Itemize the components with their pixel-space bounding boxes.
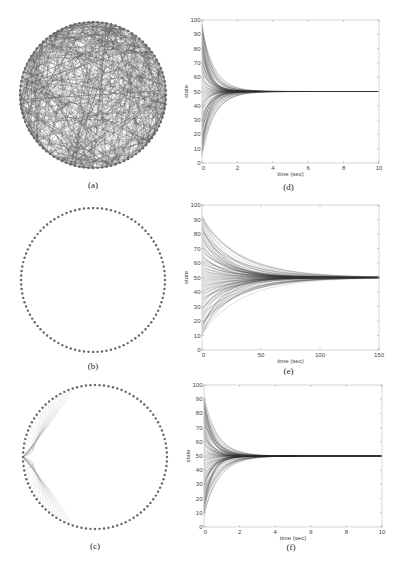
y-tick-label: 40 — [194, 289, 201, 295]
x-tick-label: 8 — [345, 529, 349, 535]
y-tick-label: 0 — [197, 347, 201, 353]
plot-panel-f: 01020304050607080901000246810time (sec)s… — [185, 382, 386, 552]
y-tick-label: 70 — [194, 246, 201, 252]
x-tick-label: 2 — [238, 529, 242, 535]
y-tick-label: 90 — [196, 396, 203, 402]
y-tick-label: 70 — [194, 60, 201, 66]
plot-panel-e: 0102030405060708090100050100150time (sec… — [183, 202, 385, 376]
x-tick-label: 2 — [236, 165, 240, 171]
x-axis-label: time (sec) — [280, 535, 306, 541]
y-axis-label: state — [185, 449, 191, 463]
x-tick-label: 0 — [204, 529, 208, 535]
y-tick-label: 80 — [194, 231, 201, 237]
y-tick-label: 10 — [194, 146, 201, 152]
y-tick-label: 20 — [194, 131, 201, 137]
panel-caption: (d) — [283, 182, 294, 192]
state-trajectories — [202, 23, 379, 156]
y-tick-label: 100 — [190, 17, 201, 23]
y-tick-label: 30 — [194, 117, 201, 123]
y-tick-label: 40 — [194, 103, 201, 109]
y-tick-label: 60 — [194, 74, 201, 80]
panel-caption: (e) — [284, 366, 294, 376]
y-tick-label: 10 — [194, 333, 201, 339]
x-tick-label: 150 — [374, 352, 385, 358]
x-tick-label: 6 — [309, 529, 313, 535]
y-tick-label: 0 — [199, 524, 203, 530]
panel-caption: (a) — [88, 180, 98, 190]
graph-edges — [23, 389, 73, 526]
y-tick-label: 100 — [192, 382, 203, 388]
y-tick-label: 30 — [196, 481, 203, 487]
y-tick-label: 60 — [194, 260, 201, 266]
y-tick-label: 0 — [197, 160, 201, 166]
y-tick-label: 80 — [194, 46, 201, 52]
x-tick-label: 0 — [202, 165, 206, 171]
x-tick-label: 50 — [258, 352, 265, 358]
x-tick-label: 100 — [315, 352, 326, 358]
x-axis-label: time (sec) — [277, 171, 303, 177]
y-tick-label: 100 — [190, 202, 201, 208]
y-tick-label: 20 — [196, 496, 203, 502]
y-tick-label: 80 — [196, 410, 203, 416]
y-tick-label: 40 — [196, 467, 203, 473]
plot-panel-d: 01020304050607080901000246810time (sec)s… — [183, 17, 383, 192]
x-tick-label: 8 — [342, 165, 346, 171]
x-tick-label: 4 — [274, 529, 278, 535]
network-graph-panels: (a)(b)(c) — [19, 21, 168, 551]
x-axis-label: time (sec) — [277, 358, 303, 364]
x-tick-label: 6 — [307, 165, 311, 171]
y-tick-label: 90 — [194, 217, 201, 223]
state-trajectories — [202, 215, 379, 335]
y-tick-label: 30 — [194, 304, 201, 310]
figure: (a)(b)(c) 01020304050607080901000246810t… — [0, 0, 401, 570]
y-tick-label: 10 — [196, 510, 203, 516]
y-axis-label: state — [183, 270, 189, 284]
y-tick-label: 70 — [196, 425, 203, 431]
state-trajectories — [204, 396, 382, 515]
graph-panel-c: (c) — [22, 384, 168, 551]
y-tick-label: 60 — [196, 439, 203, 445]
x-tick-label: 0 — [202, 352, 206, 358]
y-tick-label: 20 — [194, 318, 201, 324]
y-tick-label: 50 — [196, 453, 203, 459]
panel-caption: (c) — [90, 541, 100, 551]
y-tick-label: 50 — [194, 89, 201, 95]
graph-edges — [20, 22, 166, 168]
x-tick-label: 10 — [379, 529, 386, 535]
y-tick-label: 50 — [194, 275, 201, 281]
consensus-state-plots: 01020304050607080901000246810time (sec)s… — [183, 17, 386, 552]
y-tick-label: 90 — [194, 31, 201, 37]
x-tick-label: 10 — [376, 165, 383, 171]
x-axis: 0246810 — [202, 20, 383, 171]
panel-caption: (f) — [287, 542, 296, 552]
panel-caption: (b) — [88, 361, 99, 371]
x-tick-label: 4 — [271, 165, 275, 171]
graph-panel-a: (a) — [19, 21, 167, 190]
graph-nodes — [22, 384, 168, 530]
graph-panel-b: (b) — [20, 207, 166, 371]
graph-nodes — [20, 207, 166, 353]
y-axis-label: state — [183, 84, 189, 98]
